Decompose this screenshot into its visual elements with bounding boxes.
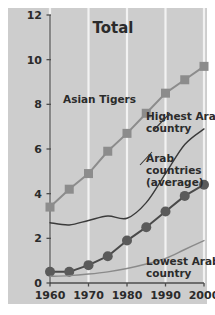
chart-title: Total	[93, 19, 134, 37]
data-point-marker	[123, 129, 132, 138]
x-tick-label-2000: 2000	[189, 289, 215, 302]
data-point-marker	[84, 260, 94, 270]
data-point-marker	[161, 89, 170, 98]
y-tick-label-2: 2	[34, 232, 42, 245]
x-tick-label-1960: 1960	[35, 289, 66, 302]
x-tick-label-1990: 1990	[150, 289, 181, 302]
annotation-line: (average)	[146, 176, 204, 188]
data-point-marker	[46, 203, 55, 212]
chart-container: 024681012 19601970198019902000 Asian Tig…	[0, 0, 215, 315]
data-point-marker	[103, 251, 113, 261]
y-tick-label-12: 12	[27, 9, 42, 22]
y-tick-label-4: 4	[34, 188, 42, 201]
annotation-line: country	[146, 122, 192, 134]
data-point-marker	[180, 75, 189, 84]
x-tick-label-1980: 1980	[112, 289, 143, 302]
y-tick-label-10: 10	[27, 54, 43, 67]
annotation-line: country	[146, 267, 192, 279]
data-point-marker	[200, 62, 209, 71]
data-point-marker	[103, 147, 112, 156]
annotation-asian-tigers: Asian Tigers	[63, 93, 136, 105]
annotation-arab-countries-average: Arabcountries(average)	[146, 152, 204, 188]
data-point-marker	[65, 185, 74, 194]
data-point-marker	[161, 207, 171, 217]
annotation-line: countries	[146, 164, 202, 176]
data-point-marker	[141, 222, 151, 232]
chart-canvas: 024681012 19601970198019902000 Asian Tig…	[0, 0, 215, 315]
y-tick-label-6: 6	[34, 143, 42, 156]
data-point-marker	[180, 191, 190, 201]
x-tick-label-1970: 1970	[73, 289, 104, 302]
y-tick-label-8: 8	[34, 98, 42, 111]
x-tick-labels: 19601970198019902000	[35, 289, 215, 302]
annotation-line: Lowest Arab	[146, 255, 215, 267]
data-point-marker	[84, 169, 93, 178]
annotation-line: Asian Tigers	[63, 93, 136, 105]
data-point-marker	[45, 267, 55, 277]
data-point-marker	[122, 236, 132, 246]
y-tick-labels: 024681012	[27, 9, 43, 290]
annotation-line: Highest Arab	[146, 110, 215, 122]
